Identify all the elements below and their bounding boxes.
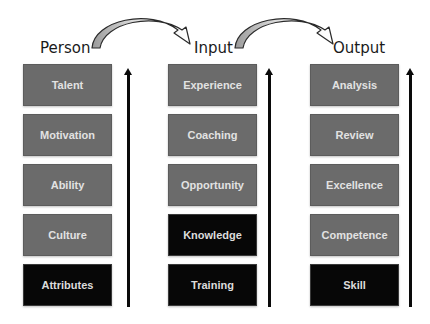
up-arrow-line-output bbox=[409, 74, 412, 307]
curved-arrow-person-to-input bbox=[92, 19, 190, 48]
up-arrow-line-person bbox=[127, 74, 130, 307]
column-label-output: Output bbox=[333, 39, 385, 57]
box-experience: Experience bbox=[168, 64, 257, 106]
box-training: Training bbox=[168, 264, 257, 306]
box-attributes: Attributes bbox=[23, 264, 112, 306]
curved-arrow-input-to-output bbox=[235, 19, 333, 48]
box-motivation: Motivation bbox=[23, 114, 112, 156]
box-knowledge: Knowledge bbox=[168, 214, 257, 256]
box-ability: Ability bbox=[23, 164, 112, 206]
column-label-input: Input bbox=[194, 39, 233, 57]
box-review: Review bbox=[310, 114, 399, 156]
box-culture: Culture bbox=[23, 214, 112, 256]
box-opportunity: Opportunity bbox=[168, 164, 257, 206]
box-talent: Talent bbox=[23, 64, 112, 106]
box-analysis: Analysis bbox=[310, 64, 399, 106]
box-competence: Competence bbox=[310, 214, 399, 256]
box-skill: Skill bbox=[310, 264, 399, 306]
column-label-person: Person bbox=[40, 39, 90, 57]
up-arrow-line-input bbox=[268, 74, 271, 307]
box-coaching: Coaching bbox=[168, 114, 257, 156]
box-excellence: Excellence bbox=[310, 164, 399, 206]
